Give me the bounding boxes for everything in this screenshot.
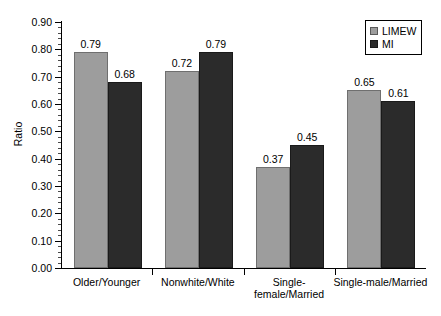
bar-value-label: 0.61 — [375, 88, 421, 99]
y-axis-tick-label-slot: 0.10 — [0, 241, 52, 242]
legend-entry-mi: MI — [370, 38, 416, 50]
x-axis-category-separator-tick — [335, 269, 336, 275]
x-axis-category-label-0: Older/Younger — [55, 277, 158, 289]
bar-value-label: 0.65 — [341, 77, 387, 88]
y-axis-tick-label: 0.90 — [0, 17, 52, 28]
y-axis-tick-label-slot: 0.20 — [0, 213, 52, 214]
x-axis-category-label-3: Single-male/Married — [329, 277, 432, 289]
x-axis-category-separator-tick — [244, 269, 245, 275]
y-axis-tick-label: 0.70 — [0, 72, 52, 83]
y-axis-tick-label: 0.60 — [0, 99, 52, 110]
legend-label: LIMEW — [382, 26, 416, 37]
legend-swatch-limew-icon — [370, 27, 378, 35]
plot-area: 0.790.680.720.790.370.450.650.61 — [62, 22, 425, 268]
legend-swatch-mi-icon — [370, 40, 378, 48]
y-axis-tick-label: 0.80 — [0, 44, 52, 55]
y-axis-tick-label: 0.40 — [0, 154, 52, 165]
y-axis-tick-label-slot: 0.30 — [0, 186, 52, 187]
y-axis-tick-label-slot: 0.50 — [0, 131, 52, 132]
y-axis-tick-label-slot: 0.40 — [0, 159, 52, 160]
bar-limew-2 — [256, 167, 290, 268]
bar-limew-3 — [347, 90, 381, 268]
bar-value-label: 0.45 — [284, 132, 330, 143]
x-axis-category-label-2: Single- female/Married — [238, 277, 341, 300]
y-axis-tick-label: 0.00 — [0, 263, 52, 274]
chart-legend: LIMEWMI — [365, 20, 422, 55]
y-axis-tick-label: 0.10 — [0, 236, 52, 247]
bar-value-label: 0.79 — [68, 39, 114, 50]
y-axis-tick-label-slot: 0.60 — [0, 104, 52, 105]
legend-label: MI — [382, 39, 394, 50]
bar-mi-3 — [381, 101, 415, 268]
y-axis-tick-label-slot: 0.80 — [0, 49, 52, 50]
bar-mi-0 — [108, 82, 142, 268]
y-axis-tick-label-slot: 0.90 — [0, 22, 52, 23]
x-axis-category-label-1: Nonwhite/White — [146, 277, 249, 289]
bar-limew-0 — [74, 52, 108, 268]
bar-mi-1 — [199, 52, 233, 268]
x-axis-category-separator-tick — [152, 269, 153, 275]
y-axis-tick-label-slot: 0.70 — [0, 77, 52, 78]
chart-figure: Ratio 0.000.100.200.300.400.500.600.700.… — [0, 0, 441, 316]
y-axis-tick-label-slot: 0.00 — [0, 268, 52, 269]
y-axis-tick-label: 0.20 — [0, 208, 52, 219]
bar-value-label: 0.68 — [102, 69, 148, 80]
legend-entry-limew: LIMEW — [370, 25, 416, 37]
bar-limew-1 — [165, 71, 199, 268]
bar-value-label: 0.79 — [193, 39, 239, 50]
y-axis-tick-label: 0.50 — [0, 126, 52, 137]
bar-mi-2 — [290, 145, 324, 268]
y-axis-tick-label: 0.30 — [0, 181, 52, 192]
